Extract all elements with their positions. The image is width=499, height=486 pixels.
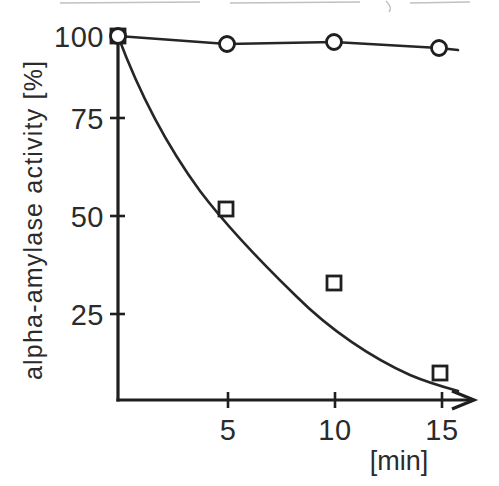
series-stable-sample [118,35,458,56]
chart-figure: 100 75 50 25 5 10 15 [min] alpha-amylase… [0,0,499,486]
x-tick-label-10: 10 [318,414,351,446]
chart-plot-area: 100 75 50 25 5 10 15 [min] alpha-amylase… [0,0,499,486]
data-point-marker [432,41,447,56]
y-axis-title: alpha-amylase activity [%] [19,60,47,380]
data-point-marker [327,276,341,290]
x-axis-unit-label: [min] [370,446,429,476]
data-point-marker [327,35,342,50]
x-tick-label-5: 5 [220,414,237,446]
data-point-marker [219,202,233,216]
axis-lines [118,36,474,409]
y-axis-tick-labels: 100 75 50 25 [54,21,104,331]
data-point-marker [111,29,126,44]
data-point-marker [220,37,235,52]
series-inactivated-sample [111,29,459,392]
y-tick-label-50: 50 [71,201,104,233]
x-axis-tick-labels: 5 10 15 [220,414,459,446]
data-point-marker [433,366,447,380]
y-tick-label-75: 75 [71,103,104,135]
scan-artifact [60,1,470,12]
y-tick-label-100: 100 [54,21,104,53]
x-tick-label-15: 15 [425,414,458,446]
y-tick-label-25: 25 [71,299,104,331]
